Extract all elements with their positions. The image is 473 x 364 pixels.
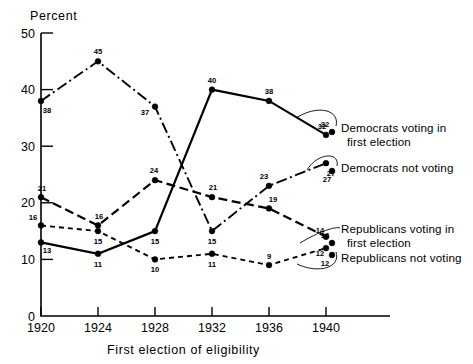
x-tick-label: 1920 [27,321,55,335]
x-tick-label: 1924 [84,321,112,335]
data-point-label: 15 [94,237,103,246]
data-point [152,177,158,183]
data-point-label: 40 [208,76,216,85]
y-tick-label: 30 [21,140,35,154]
data-point-labels: 1311154038323845371523272116242119141615… [29,47,335,274]
legend-endpoint-value: 12 [321,259,329,268]
data-point [323,132,329,138]
legend-label-line2: first election [347,135,411,148]
legend-label-line2: first election [347,236,411,249]
data-point-label: 19 [269,195,277,204]
legend-endpoint-value: 27 [323,175,331,184]
data-point-label: 11 [208,260,217,269]
data-point-label: 10 [151,265,159,274]
data-point [209,228,215,234]
data-point [209,194,215,200]
data-point-label: 13 [43,246,51,255]
data-point-label: 9 [267,252,271,261]
data-point-label: 11 [94,260,103,269]
data-point-label: 21 [209,183,218,192]
x-tick-label: 1932 [198,321,226,335]
chart-container: 01020304050192019241928193219361940Perce… [0,0,473,364]
axes: 01020304050192019241928193219361940Perce… [21,9,390,357]
data-point [266,98,272,104]
data-point-label: 12 [316,249,324,258]
series-path [41,90,326,254]
series-path [41,61,326,231]
data-point [152,104,158,110]
series-path [41,180,326,237]
data-point [38,240,44,246]
leader-line [296,110,336,126]
data-point [95,223,101,229]
data-point-label: 24 [150,166,159,175]
legend-marker [329,168,335,174]
series-lines [41,61,326,265]
data-point [95,251,101,257]
x-tick-label: 1936 [255,321,283,335]
data-point-label: 45 [94,47,103,56]
data-point [323,160,329,166]
data-point [152,228,158,234]
line-chart: 01020304050192019241928193219361940Perce… [0,0,473,364]
data-point [152,257,158,263]
legend-marker [329,129,335,135]
data-point [38,194,44,200]
data-point-label: 16 [29,213,37,222]
legend-endpoint-value: 14 [321,231,330,240]
data-point-label: 15 [151,237,160,246]
leader-line [307,156,337,170]
y-tick-label: 50 [21,27,35,41]
data-point [209,251,215,257]
data-point [266,183,272,189]
legend-marker [329,252,335,258]
legend-label: Republicans voting in [341,222,454,235]
data-point [95,58,101,64]
legend-label: Republicans not voting [341,251,462,264]
legend-label: Democrats not voting [341,161,454,174]
data-point-label: 15 [208,237,217,246]
series-path [41,225,326,265]
x-tick-label: 1928 [141,321,169,335]
x-axis-title: First election of eligibility [107,343,260,357]
legend-marker [329,240,335,246]
legend-labels: Democrats voting infirst electionDemocra… [321,120,462,268]
data-point [38,223,44,229]
x-tick-label: 1940 [312,321,340,335]
data-point-label: 38 [43,106,51,115]
data-point [266,262,272,268]
legend-leader-lines [296,110,340,269]
data-point [95,228,101,234]
data-point-label: 23 [260,172,268,181]
y-tick-label: 10 [21,253,35,267]
data-point [38,98,44,104]
data-point-label: 21 [38,184,47,193]
data-point-label: 38 [265,87,273,96]
legend-endpoint-value: 32 [321,120,329,129]
legend-label: Democrats voting in [341,121,446,134]
data-point-label: 37 [141,108,149,117]
data-point-label: 16 [95,212,103,221]
data-point [266,206,272,212]
data-point [209,87,215,93]
y-axis-title: Percent [30,9,77,23]
y-tick-label: 20 [21,196,35,210]
y-tick-label: 40 [21,83,35,97]
